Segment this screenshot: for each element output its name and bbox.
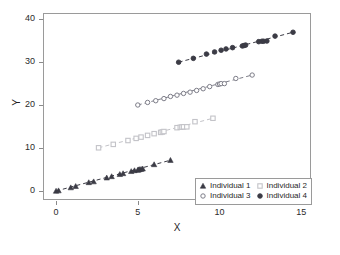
legend-label: Individual 2 <box>267 182 307 190</box>
y-axis-tick-mark <box>39 148 43 149</box>
y-axis-title: Y <box>11 83 22 123</box>
data-point-marker <box>250 73 254 77</box>
circle-open-marker-icon <box>199 192 207 200</box>
y-axis-tick-mark <box>39 191 43 192</box>
data-point-marker <box>175 93 179 97</box>
data-point-marker <box>139 135 143 139</box>
data-point-marker <box>145 100 149 104</box>
data-point-marker <box>207 84 211 88</box>
circle-marker-icon <box>256 192 264 200</box>
x-axis-tick-label: 5 <box>126 207 150 217</box>
data-point-marker <box>181 91 185 95</box>
data-point-marker <box>265 39 270 44</box>
data-point-marker <box>126 138 130 142</box>
chart-legend: Individual 1Individual 2Individual 3Indi… <box>195 178 312 205</box>
y-axis-tick-mark <box>39 62 43 63</box>
data-point-marker <box>204 52 209 57</box>
data-point-marker <box>234 76 238 80</box>
data-point-marker <box>194 88 198 92</box>
data-series <box>176 30 295 65</box>
y-axis-tick-mark <box>39 105 43 106</box>
data-point-marker <box>211 116 215 120</box>
data-point-marker <box>151 162 156 167</box>
data-point-marker <box>193 119 197 123</box>
legend-entry-3[interactable]: Individual 3 <box>199 191 252 201</box>
y-axis-tick-label: 10 <box>13 142 35 152</box>
data-point-marker <box>162 129 166 133</box>
data-point-marker <box>243 43 248 48</box>
data-point-marker <box>168 94 172 98</box>
legend-entry-1[interactable]: Individual 1 <box>199 181 252 191</box>
data-point-marker <box>68 185 73 190</box>
x-axis-tick-label: 15 <box>289 207 313 217</box>
data-point-marker <box>154 99 158 103</box>
x-axis-tick-mark <box>56 201 57 205</box>
x-axis-tick-label: 0 <box>44 207 68 217</box>
data-point-marker <box>134 136 138 140</box>
data-series <box>136 73 255 107</box>
data-point-marker <box>111 142 115 146</box>
data-point-marker <box>224 47 229 52</box>
x-axis-tick-mark <box>138 201 139 205</box>
data-point-marker <box>185 125 189 129</box>
legend-entry-2[interactable]: Individual 2 <box>256 181 309 191</box>
data-point-marker <box>222 81 226 85</box>
data-point-marker <box>188 90 192 94</box>
data-point-marker <box>291 30 296 35</box>
y-axis-tick-label: 0 <box>13 185 35 195</box>
x-axis-title: X <box>43 222 311 233</box>
data-point-marker <box>219 48 224 53</box>
data-point-marker <box>201 87 205 91</box>
data-point-marker <box>162 96 166 100</box>
data-point-marker <box>73 184 78 189</box>
triangle-marker-icon <box>199 182 207 190</box>
plot-data-canvas <box>43 13 311 200</box>
legend-label: Individual 3 <box>210 192 250 200</box>
data-point-marker <box>96 146 100 150</box>
scatter-plot-figure: 010203040051015 Y X Individual 1Individu… <box>0 0 340 255</box>
data-point-marker <box>168 158 173 163</box>
y-axis-tick-label: 40 <box>13 13 35 23</box>
data-point-marker <box>176 60 181 65</box>
legend-label: Individual 1 <box>210 182 250 190</box>
data-series <box>96 116 215 150</box>
data-point-marker <box>120 171 125 176</box>
legend-entry-4[interactable]: Individual 4 <box>256 191 309 201</box>
data-point-marker <box>136 103 140 107</box>
y-axis-tick-label: 30 <box>13 56 35 66</box>
series-layer <box>53 30 295 193</box>
data-point-marker <box>273 34 278 39</box>
x-axis-tick-label: 10 <box>207 207 231 217</box>
data-point-marker <box>212 50 217 55</box>
data-point-marker <box>145 133 149 137</box>
data-series <box>53 158 173 194</box>
legend-label: Individual 4 <box>267 192 307 200</box>
data-point-marker <box>152 131 156 135</box>
square-marker-icon <box>256 182 264 190</box>
y-axis-tick-mark <box>39 19 43 20</box>
data-point-marker <box>191 56 196 61</box>
data-point-marker <box>109 174 114 179</box>
data-point-marker <box>230 45 235 50</box>
